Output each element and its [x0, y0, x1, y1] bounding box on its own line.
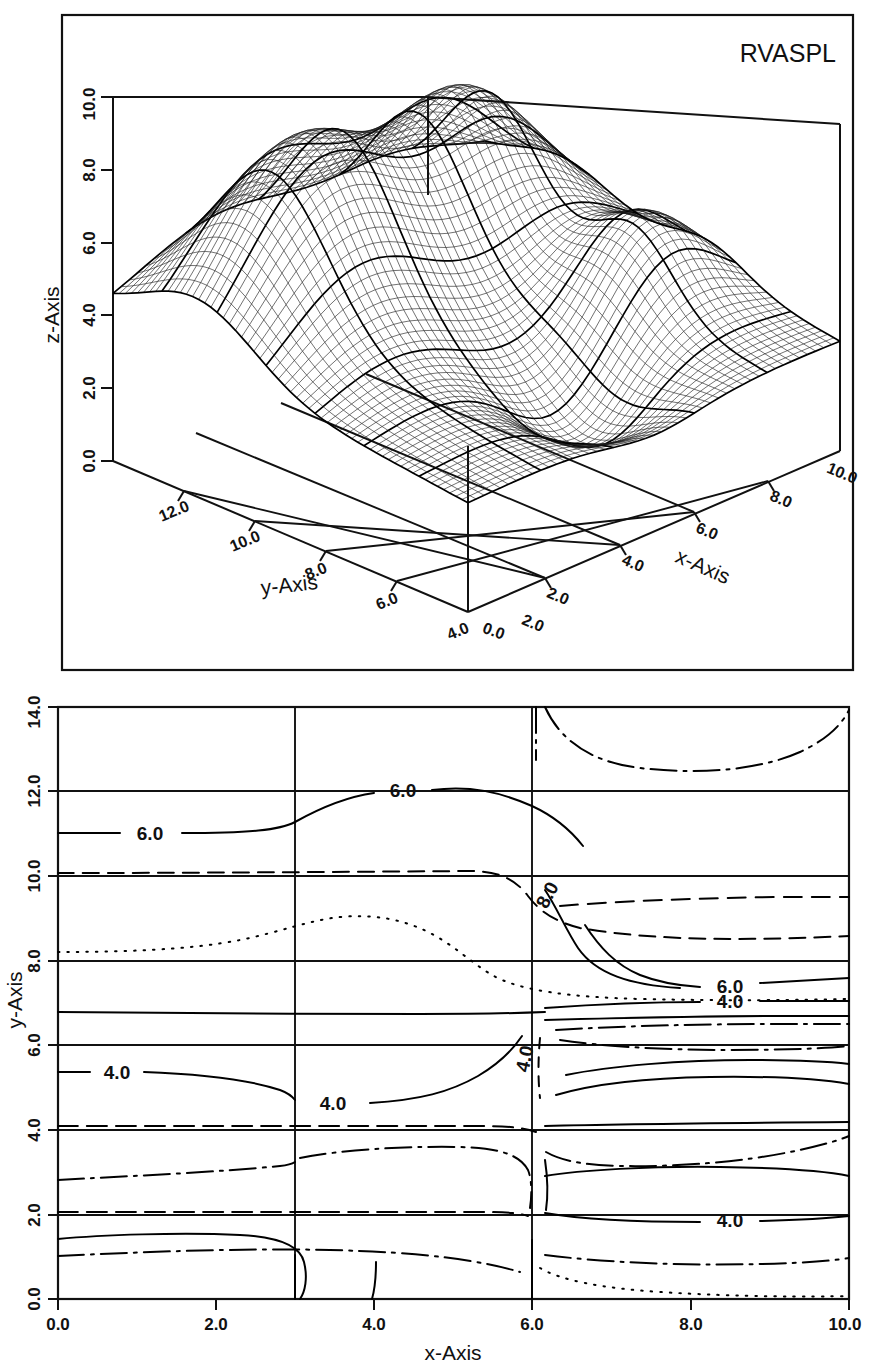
z-tick-0: 0.0	[80, 449, 99, 473]
figure-root: RVASPL	[0, 0, 888, 1372]
contour-dashdot-low-a	[58, 1162, 295, 1180]
contour-4-bottomright-botb	[760, 1216, 849, 1221]
x-axis-name-3d: x-Axis	[672, 544, 734, 588]
cy-tick-14: 14.0	[25, 695, 44, 728]
y-tick-10: 10.0	[227, 527, 262, 555]
contour-label-8: 4.0	[717, 1210, 743, 1231]
contour-4-upper-b	[545, 1002, 700, 1008]
contour-dashdot-low-right	[546, 1136, 849, 1166]
cy-tick-12: 12.0	[25, 774, 44, 807]
surface-wireframe	[113, 85, 840, 503]
origin-label-3d: 0.0	[481, 619, 508, 643]
z-tick-4: 8.0	[80, 158, 99, 182]
contour-4-upper-a	[58, 1012, 545, 1014]
contour-label-0: 6.0	[137, 823, 163, 844]
contour-label-1: 6.0	[390, 780, 416, 801]
contour-label-5: 4.0	[104, 1062, 130, 1083]
z-tick-1: 2.0	[80, 376, 99, 400]
x-tick-6: 6.0	[694, 519, 721, 543]
contour-x-axis-name: x-Axis	[424, 1341, 481, 1364]
cx-tick-6: 6.0	[520, 1315, 544, 1334]
contour-y-axis-name: y-Axis	[3, 971, 26, 1028]
contour-6-mid	[432, 788, 583, 846]
cy-tick-6: 6.0	[25, 1033, 44, 1057]
contour-dashdot-low-b	[300, 1147, 531, 1208]
y-tick-4: 4.0	[444, 619, 471, 643]
z-tick-2: 4.0	[80, 303, 99, 327]
contour-dashdot-bottom-right	[545, 1255, 849, 1265]
contour-vert-low	[545, 1160, 547, 1210]
contour-loop-b	[566, 1060, 849, 1075]
contour-x-ticks	[58, 1299, 849, 1310]
contour-dotted-bottom	[540, 1268, 849, 1297]
x-tick-2: 2.0	[545, 584, 572, 608]
cx-tick-10: 10.0	[828, 1315, 861, 1334]
z-axis-ticks	[101, 97, 113, 461]
contour-label-7: 4.0	[512, 1044, 538, 1074]
contour-dashdot-bottom	[58, 1249, 520, 1272]
x-tick-4: 4.0	[620, 551, 647, 575]
contour-dashdot-topright	[545, 707, 849, 771]
contour-4-mid	[370, 1036, 522, 1103]
floor-grid	[113, 374, 840, 612]
cy-tick-2: 2.0	[25, 1203, 44, 1227]
contour-vert-x4-bottom	[372, 1262, 376, 1299]
contour-y-ticks	[48, 707, 58, 1299]
contour-dashdot-right-7	[556, 1024, 849, 1030]
contour-6-right-a	[585, 925, 700, 987]
figure-title: RVASPL	[740, 39, 836, 67]
contour-4-left-b	[144, 1072, 295, 1100]
z-tick-3: 6.0	[80, 231, 99, 255]
contour-label-4: 4.0	[717, 991, 743, 1012]
contour-bottomleft-loop	[58, 1234, 306, 1299]
contour-loop-c	[556, 1077, 849, 1095]
contour-labels: 6.0 6.0 8.0 6.0 4.0 4.0 4.0 4.0 4.0	[104, 780, 743, 1231]
surface-panel-frame	[62, 15, 853, 670]
cx-tick-4: 4.0	[362, 1315, 386, 1334]
cx-tick-8: 8.0	[679, 1315, 703, 1334]
contour-y-tick-labels: 0.0 2.0 4.0 6.0 8.0 10.0 12.0 14.0	[25, 695, 44, 1310]
contour-panel: 0.0 2.0 4.0 6.0 8.0 10.0 12.0 14.0 y-Axi…	[3, 695, 862, 1364]
floor-right-edge	[468, 451, 840, 612]
contour-6-right-b	[760, 978, 849, 983]
contour-vert-dashed-right	[539, 1038, 541, 1098]
y-axis-name-3d: y-Axis	[260, 570, 319, 599]
y-tick-2: 2.0	[520, 611, 547, 635]
cy-tick-8: 8.0	[25, 949, 44, 973]
contour-x-tick-labels: 0.0 2.0 4.0 6.0 8.0 10.0	[46, 1315, 861, 1334]
z-tick-5: 10.0	[80, 87, 99, 120]
x-tick-10: 10.0	[824, 459, 859, 487]
contour-dashed-10	[58, 871, 849, 939]
z-axis-tick-labels: 0.0 2.0 4.0 6.0 8.0 10.0	[80, 87, 99, 472]
contour-label-6: 4.0	[320, 1093, 346, 1114]
contour-4-upper-d	[545, 1016, 849, 1020]
z-axis-name: z-Axis	[40, 286, 63, 343]
contour-solid-y4-right	[545, 1122, 849, 1126]
cy-tick-10: 10.0	[25, 859, 44, 892]
figure-svg: RVASPL	[0, 0, 888, 1372]
contour-6-left-b	[182, 793, 374, 833]
cy-tick-0: 0.0	[25, 1287, 44, 1311]
surface-panel: RVASPL	[40, 15, 860, 670]
x-tick-8: 8.0	[768, 487, 795, 511]
y-tick-6: 6.0	[373, 589, 400, 613]
cx-tick-2: 2.0	[204, 1315, 228, 1334]
contour-dashed-right-98	[560, 897, 849, 906]
cx-tick-0: 0.0	[46, 1315, 70, 1334]
cy-tick-4: 4.0	[25, 1118, 44, 1142]
y-tick-12: 12.0	[156, 497, 191, 525]
contour-dashed-y4	[58, 1126, 536, 1132]
contour-4-bottomright-top	[545, 1167, 849, 1176]
